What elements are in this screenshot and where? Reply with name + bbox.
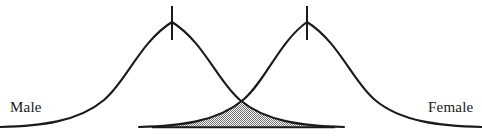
female-curve-label: Female <box>428 99 473 115</box>
distribution-chart-canvas: Male Female <box>0 0 482 139</box>
male-curve-label: Male <box>10 99 42 115</box>
distribution-figure: Male Female <box>0 0 482 139</box>
